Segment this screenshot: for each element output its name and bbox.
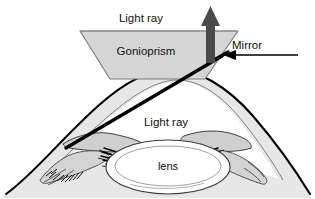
up-arrow-head [201, 6, 220, 26]
label-gonioprism: Gonioprism [117, 45, 176, 57]
gonioscopy-figure: Light ray Gonioprism Mirror Light ray le… [0, 0, 315, 199]
label-mirror: Mirror [232, 39, 262, 51]
label-lens: lens [158, 160, 179, 172]
label-light-ray-inner: Light ray [144, 116, 188, 128]
diagram-canvas: Light ray Gonioprism Mirror Light ray le… [0, 0, 315, 199]
left-arrow-icon [223, 50, 298, 60]
label-light-ray-top: Light ray [119, 12, 163, 24]
